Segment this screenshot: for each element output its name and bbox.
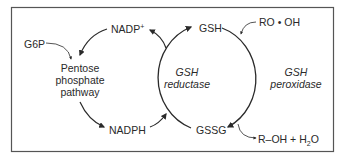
cycle-to-products-arrow	[238, 124, 256, 138]
gsh-reductase-label: GSH reductase	[162, 66, 212, 90]
g6p-label: G6P	[24, 38, 45, 50]
products-label: R–OH + H2O	[258, 133, 319, 145]
ppp-line-1: Pentose	[50, 62, 110, 74]
nadp-plus-label: NADP+	[111, 23, 144, 35]
gsh-label: GSH	[199, 22, 222, 34]
ro-oh-label: RO • OH	[259, 16, 300, 28]
rooh-to-cycle-arrow	[241, 22, 256, 34]
ppp-line-3: pathway	[50, 86, 110, 98]
peroxidase-arc	[222, 28, 256, 127]
reductase-line-1: GSH	[162, 66, 212, 78]
nadph-to-cycle-arrow	[150, 114, 166, 127]
pentose-phosphate-pathway-label: Pentose phosphate pathway	[50, 62, 110, 98]
products-prefix: R–OH + H	[258, 133, 307, 145]
peroxidase-line-2: peroxidase	[266, 78, 326, 90]
nadp-to-ppp-arrow	[80, 29, 107, 55]
gssg-label: GSSG	[196, 124, 226, 136]
to-nadp-arrow	[150, 30, 166, 48]
reductase-line-2: reductase	[162, 78, 212, 90]
nadp-plus-text: NADP	[111, 23, 140, 35]
ppp-to-nadph-arrow	[80, 102, 104, 127]
peroxidase-line-1: GSH	[266, 66, 326, 78]
g6p-to-ppp-arrow	[46, 43, 71, 59]
gsh-peroxidase-label: GSH peroxidase	[266, 66, 326, 90]
nadph-label: NADPH	[109, 124, 146, 136]
ppp-line-2: phosphate	[50, 74, 110, 86]
nadp-plus-superscript: +	[140, 23, 144, 30]
products-suffix: O	[311, 133, 319, 145]
glutathione-cycle-diagram: NADP+ G6P Pentose phosphate pathway NADP…	[0, 0, 343, 154]
